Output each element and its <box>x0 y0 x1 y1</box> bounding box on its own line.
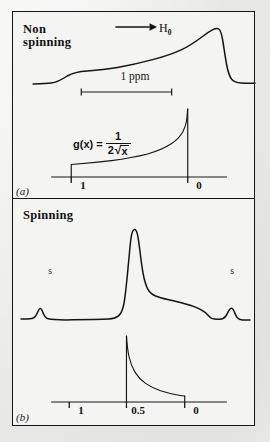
panel-b-tick-label-0: 0 <box>193 404 199 416</box>
panel-a-graphics <box>13 12 254 198</box>
panel-a-equation: g(x) = 1 2 √ x <box>73 131 131 157</box>
panel-b-tick-label-0point5: 0.5 <box>131 404 145 416</box>
figure-root: Non spinning H0 1 ppm <box>0 0 270 442</box>
panel-a-letter: (a) <box>16 185 29 197</box>
panel-a-equation-denominator: 2 √ x <box>106 144 131 157</box>
sideband-label-right: s <box>230 266 234 276</box>
non-spinning-spectrum-trace <box>33 28 255 84</box>
panel-a-equation-radicand: x <box>120 145 128 157</box>
panel-b-tick-label-1: 1 <box>78 404 84 416</box>
spinning-theory-curve <box>126 336 184 396</box>
panel-a-equation-numerator: 1 <box>112 131 124 143</box>
field-direction-arrow <box>115 23 157 31</box>
figure-frame: Non spinning H0 1 ppm <box>12 11 255 426</box>
panel-b-graphics <box>13 198 254 425</box>
panel-a-tick-label-1: 1 <box>80 179 86 191</box>
panel-a-equation-fraction: 1 2 √ x <box>106 131 131 157</box>
panel-a-equation-radical: √ x <box>115 145 129 157</box>
panel-b-letter: (b) <box>16 411 29 423</box>
sideband-label-left: s <box>48 266 52 276</box>
panel-a-equation-denominator-coefficient: 2 <box>108 145 114 156</box>
ppm-scale-bar <box>81 89 171 96</box>
panel-a-tick-label-0: 0 <box>196 179 202 191</box>
spinning-spectrum-trace <box>21 229 250 320</box>
panel-a-equation-lhs: g(x) = <box>73 138 103 150</box>
panel-a-non-spinning: Non spinning H0 1 ppm <box>13 12 254 198</box>
panel-b-spinning: Spinning s s 1 0.5 0 <box>13 198 254 425</box>
